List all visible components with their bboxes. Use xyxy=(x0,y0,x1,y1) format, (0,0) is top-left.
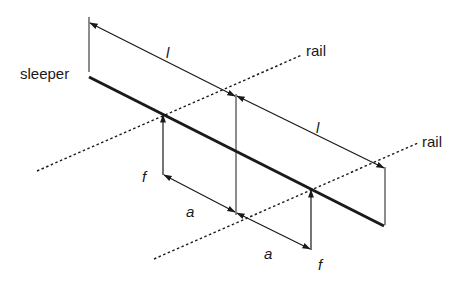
label-length-top: l xyxy=(166,44,170,61)
label-force-left: f xyxy=(142,168,148,185)
label-sleeper: sleeper xyxy=(20,65,69,82)
dimension-arrow-a-left xyxy=(164,175,235,212)
label-force-right: f xyxy=(318,256,324,273)
diagram-svg: sleeper rail rail l l f f a a xyxy=(0,0,462,282)
dimension-arrow-l-bottom xyxy=(237,96,384,168)
diagram-canvas: sleeper rail rail l l f f a a xyxy=(0,0,462,282)
rail-line-top xyxy=(37,55,302,171)
label-spacing-left: a xyxy=(186,203,194,220)
label-rail-top: rail xyxy=(306,42,326,59)
label-spacing-right: a xyxy=(264,245,272,262)
label-length-bottom: l xyxy=(316,119,320,136)
dimension-arrow-a-right xyxy=(237,213,310,249)
dimension-arrow-l-top xyxy=(90,23,235,96)
label-rail-bottom: rail xyxy=(422,133,442,150)
rail-line-bottom xyxy=(154,143,418,259)
